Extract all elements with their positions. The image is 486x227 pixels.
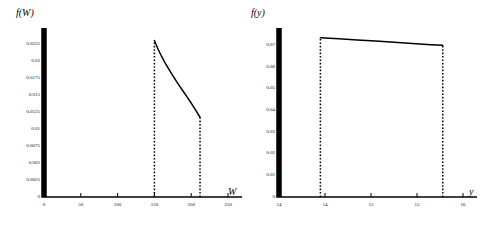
y-tick-label: 0.0025	[10, 177, 40, 182]
y-tick-label: 0.04	[245, 107, 275, 112]
y-tick-label: 0.02	[10, 58, 40, 63]
x-tick-label: 150	[140, 202, 168, 207]
x-tick-label: 100	[104, 202, 132, 207]
y-tick-label: 0.05	[245, 85, 275, 90]
y-axis-bar	[41, 28, 47, 197]
y-tick-label: 0	[245, 194, 275, 199]
y-tick-label: 0.06	[245, 64, 275, 69]
y-tick-label: 0.0175	[10, 75, 40, 80]
y-axis-title-left: f(W)	[16, 7, 34, 18]
x-tick-label: 14	[265, 202, 293, 207]
x-axis-title-right: y	[469, 186, 473, 197]
y-tick-label: 0.02	[245, 150, 275, 155]
y-tick-label: 0.015	[10, 92, 40, 97]
y-tick-label: 0.005	[10, 160, 40, 165]
x-tick-label: 15	[403, 202, 431, 207]
y-tick-label: 0.07	[245, 42, 275, 47]
plot-area-right	[243, 0, 486, 227]
x-tick-label: 15	[357, 202, 385, 207]
y-tick-label: 0.0125	[10, 109, 40, 114]
x-tick-label: 14	[311, 202, 339, 207]
x-tick-label: 0	[30, 202, 58, 207]
y-tick-label: 0.0225	[10, 41, 40, 46]
y-tick-label: 0.0075	[10, 143, 40, 148]
data-series-line	[320, 38, 442, 46]
y-axis-bar	[276, 28, 282, 197]
y-tick-label: 0	[10, 194, 40, 199]
figure-container: f(W) W 05010015020025000.00250.0050.0075…	[0, 0, 486, 227]
data-series-line	[154, 41, 200, 118]
y-axis-title-right: f(y)	[251, 7, 265, 18]
y-tick-label: 0.03	[245, 129, 275, 134]
x-tick-label: 200	[177, 202, 205, 207]
y-tick-label: 0.01	[245, 172, 275, 177]
chart-panel-left: f(W) W 05010015020025000.00250.0050.0075…	[0, 0, 243, 227]
x-tick-label: 50	[67, 202, 95, 207]
x-axis-title-left: W	[228, 186, 236, 197]
x-tick-label: 250	[214, 202, 242, 207]
y-tick-label: 0.01	[10, 126, 40, 131]
x-tick-label: 16	[449, 202, 477, 207]
chart-panel-right: f(y) y 141415151600.010.020.030.040.050.…	[243, 0, 486, 227]
